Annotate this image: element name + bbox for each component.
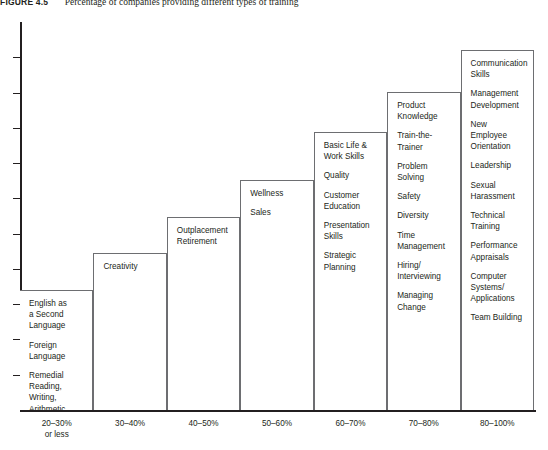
bar-item-label: Communication Skills	[471, 58, 533, 80]
x-axis-line	[20, 410, 536, 412]
bar: Basic Life & Work SkillsQualityCustomer …	[314, 132, 387, 410]
bar-item-label: Performance Appraisals	[471, 240, 533, 262]
y-axis-tick	[13, 128, 21, 129]
y-axis-tick	[13, 269, 21, 270]
bar: Outplacement Retirement	[167, 217, 240, 410]
bar-item-label: Creativity	[103, 261, 165, 272]
bar-item-label: Remedial Reading, Writing, Arithmetic	[29, 370, 92, 410]
bar-item-label: Problem Solving	[397, 161, 459, 183]
bar-item-label: Team Building	[471, 312, 533, 323]
bar-item-list: English as a Second LanguageForeign Lang…	[20, 291, 92, 410]
bar-item-label: New Employee Orientation	[471, 119, 533, 153]
bar-item-label: Presentation Skills	[324, 220, 386, 242]
bar-item-list: Communication SkillsManagement Developme…	[462, 51, 533, 324]
bar-item-label: Computer Systems/ Applications	[471, 271, 533, 305]
bar: Creativity	[93, 253, 166, 410]
x-axis-label: 60–70%	[314, 419, 387, 430]
x-axis-label: 50–60%	[240, 419, 313, 430]
bar-item-label: Strategic Planning	[324, 250, 386, 272]
bar-item-list: Outplacement Retirement	[168, 218, 239, 247]
bar-item-label: Sales	[250, 207, 312, 218]
bar-item-label: Quality	[324, 170, 386, 181]
bar-item-label: Product Knowledge	[397, 100, 459, 122]
bar-item-label: Wellness	[250, 188, 312, 199]
bar-item-label: Safety	[397, 191, 459, 202]
bar-item-label: Diversity	[397, 210, 459, 221]
bar-item-label: Management Development	[471, 88, 533, 110]
figure-page: FIGURE 4.5 Percentage of companies provi…	[0, 0, 548, 450]
bar-item-list: Basic Life & Work SkillsQualityCustomer …	[315, 133, 386, 273]
y-axis-tick	[13, 93, 21, 94]
bar-item-label: Hiring/ Interviewing	[397, 260, 459, 282]
bar-item-label: Managing Change	[397, 290, 459, 312]
bar: Product KnowledgeTrain-the- TrainerProbl…	[387, 92, 460, 410]
bar-item-label: Train-the- Trainer	[397, 130, 459, 152]
bar: Communication SkillsManagement Developme…	[461, 50, 534, 410]
x-axis-label: 80–100%	[461, 419, 534, 430]
bar-item-label: Outplacement Retirement	[177, 225, 239, 247]
bar-item-label: Basic Life & Work Skills	[324, 140, 386, 162]
bar-item-label: Foreign Language	[29, 340, 92, 362]
x-axis-label: 30–40%	[93, 419, 166, 430]
bar-chart: English as a Second LanguageForeign Lang…	[0, 0, 548, 450]
x-axis-label: 70–80%	[387, 419, 460, 430]
bar-item-label: Customer Education	[324, 190, 386, 212]
x-axis-label: 20–30% or less	[20, 419, 93, 440]
bar-item-label: English as a Second Language	[29, 298, 92, 332]
bar-item-list: Creativity	[94, 254, 165, 272]
bar-item-list: WellnessSales	[241, 181, 312, 218]
bar-item-list: Product KnowledgeTrain-the- TrainerProbl…	[388, 93, 459, 313]
y-axis-tick	[13, 57, 21, 58]
bar-item-label: Technical Training	[471, 210, 533, 232]
x-axis-label: 40–50%	[167, 419, 240, 430]
y-axis-tick	[13, 163, 21, 164]
bar-item-label: Sexual Harassment	[471, 180, 533, 202]
y-axis-tick	[13, 198, 21, 199]
y-axis-tick	[13, 234, 21, 235]
bar: WellnessSales	[240, 180, 313, 410]
bar-item-label: Leadership	[471, 160, 533, 171]
bar: English as a Second LanguageForeign Lang…	[20, 290, 93, 410]
bar-item-label: Time Management	[397, 230, 459, 252]
